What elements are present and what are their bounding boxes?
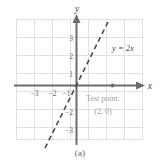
y-tick-label-neg3: −3 [65, 126, 73, 135]
y-tick-labels: 3 2 1 −2 −3 [65, 34, 73, 135]
x-tick-labels: −3 −2 −1 [31, 89, 71, 98]
coordinate-plane-chart: −3 −2 −1 3 2 1 −2 −3 x y y = 2x Test poi… [0, 0, 160, 167]
y-tick-label-1: 1 [69, 70, 73, 79]
x-axis-label: x [147, 80, 153, 91]
test-point-value: (2, 0) [94, 107, 112, 116]
y-tick-label-3: 3 [69, 34, 73, 43]
test-point-annotation: Test point: (2, 0) [86, 94, 120, 116]
y-axis-label: y [74, 3, 80, 14]
figure-panel-a: −3 −2 −1 3 2 1 −2 −3 x y y = 2x Test poi… [0, 0, 160, 167]
x-tick-label-neg3: −3 [31, 89, 39, 98]
equation-annotation: y = 2x [111, 43, 134, 53]
figure-caption: (a) [0, 148, 160, 158]
test-point-marker [111, 84, 115, 88]
x-tick-label-neg1: −1 [63, 89, 71, 98]
y-tick-label-neg2: −2 [65, 108, 73, 117]
y-tick-label-2: 2 [69, 52, 73, 61]
test-point-label: Test point: [86, 94, 120, 103]
x-tick-label-neg2: −2 [49, 89, 57, 98]
